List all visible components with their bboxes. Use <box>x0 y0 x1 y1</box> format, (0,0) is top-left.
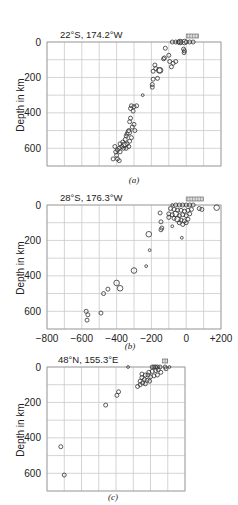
panel-b-ylabel: Depth in km <box>15 241 26 294</box>
x-tick-label: −800 <box>36 333 59 344</box>
y-tick-label: 600 <box>24 143 41 154</box>
panel-a: 22°S, 174.2°W Depth in km (a) 0200400600 <box>15 29 221 185</box>
panel-a-caption: (a) <box>129 175 140 185</box>
y-tick-label: 600 <box>24 306 41 317</box>
data-point <box>150 85 154 89</box>
data-point <box>158 211 162 215</box>
data-point <box>171 225 174 228</box>
y-tick-label: 400 <box>24 270 41 281</box>
y-tick-label: 200 <box>24 72 41 83</box>
data-point <box>135 104 139 108</box>
panel-a-grid <box>47 42 221 166</box>
data-point <box>163 46 167 50</box>
panel-c-grid <box>47 367 185 491</box>
data-point <box>148 249 151 252</box>
x-tick-label: −400 <box>105 333 128 344</box>
data-point <box>214 205 220 211</box>
panel-b-stations-marker <box>186 197 203 201</box>
panel-b-title: 28°S, 176.3°W <box>60 192 123 203</box>
data-point <box>117 285 123 291</box>
data-point <box>169 65 173 69</box>
panel-c-caption: (c) <box>108 492 118 502</box>
data-point <box>159 370 163 374</box>
panel-a-stations-marker <box>186 34 198 38</box>
x-tick-label: 0 <box>183 333 189 344</box>
data-point <box>143 382 147 386</box>
panel-c-stations-marker <box>163 359 168 363</box>
data-point <box>86 313 90 317</box>
panel-a-points <box>111 39 195 162</box>
data-point <box>146 231 152 237</box>
data-point <box>155 76 159 80</box>
data-point <box>104 403 108 407</box>
y-tick-label: 400 <box>24 432 41 443</box>
data-point <box>106 287 110 291</box>
data-point <box>180 236 183 239</box>
panel-c-title: 48°N, 155.3°E <box>58 354 118 365</box>
data-point <box>159 220 163 224</box>
panel-b: 28°S, 176.3°W Depth in km (b) 0200400600… <box>15 192 233 351</box>
data-point <box>162 57 166 61</box>
x-tick-label: +200 <box>210 333 233 344</box>
panel-b-points <box>84 203 219 322</box>
data-point <box>111 157 115 161</box>
panel-c-points <box>59 365 171 477</box>
y-tick-label: 600 <box>24 468 41 479</box>
y-tick-label: 0 <box>35 362 41 373</box>
panel-a-ylabel: Depth in km <box>15 78 26 131</box>
data-point <box>145 265 148 268</box>
panel-b-grid <box>47 205 221 329</box>
data-point <box>59 445 63 449</box>
panel-c: 48°N, 155.3°E Depth in km (c) 0200400600 <box>15 354 185 502</box>
y-tick-label: 200 <box>24 235 41 246</box>
data-point <box>115 393 119 397</box>
y-tick-label: 400 <box>24 107 41 118</box>
data-point <box>85 318 89 322</box>
x-tick-label: −200 <box>140 333 163 344</box>
y-tick-label: 0 <box>35 37 41 48</box>
panel-a-title: 22°S, 174.2°W <box>60 29 123 40</box>
panel-c-ylabel: Depth in km <box>15 403 26 456</box>
y-tick-label: 0 <box>35 200 41 211</box>
data-point <box>129 104 133 108</box>
x-tick-label: −600 <box>71 333 94 344</box>
data-point <box>148 379 152 383</box>
data-point <box>188 212 192 216</box>
data-point <box>197 207 201 211</box>
y-tick-label: 200 <box>24 397 41 408</box>
figure: 22°S, 174.2°W Depth in km (a) 0200400600… <box>0 0 238 505</box>
